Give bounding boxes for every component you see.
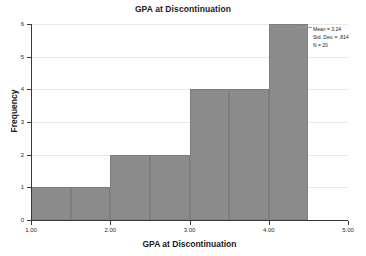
histogram-bar (110, 155, 150, 220)
x-tick-mark (269, 221, 270, 225)
y-tick-mark (27, 122, 31, 123)
stats-std-dev: Std. Dev. = .814 (313, 34, 365, 42)
stats-annotation: Mean = 3.24 Std. Dev. = .814 N = 20 (313, 26, 365, 49)
histogram-bar (150, 155, 190, 220)
x-tick-label: 3.00 (170, 227, 210, 233)
x-axis-title: GPA at Discontinuation (31, 239, 348, 249)
y-tick-label: 1 (2, 184, 24, 190)
x-tick-mark (110, 221, 111, 225)
histogram-bar (269, 24, 309, 220)
x-tick-mark (31, 221, 32, 225)
y-axis-title: Frequency (9, 61, 19, 161)
histogram-bar (71, 187, 111, 220)
x-tick-label: 2.00 (90, 227, 130, 233)
y-tick-label: 0 (2, 217, 24, 223)
stats-n: N = 20 (313, 42, 365, 50)
stats-leader-line (296, 27, 312, 28)
histogram-bar (190, 89, 230, 220)
x-tick-label: 5.00 (328, 227, 366, 233)
y-tick-mark (27, 57, 31, 58)
y-tick-mark (27, 187, 31, 188)
x-tick-mark (190, 221, 191, 225)
chart-title: GPA at Discontinuation (0, 4, 366, 14)
histogram-bar (229, 89, 269, 220)
y-tick-label: 5 (2, 54, 24, 60)
stats-mean: Mean = 3.24 (313, 26, 365, 34)
x-tick-label: 4.00 (249, 227, 289, 233)
y-tick-mark (27, 89, 31, 90)
y-tick-mark (27, 24, 31, 25)
histogram-bar (31, 187, 71, 220)
bars-layer (31, 24, 348, 220)
y-tick-mark (27, 155, 31, 156)
y-axis-line (31, 24, 32, 221)
y-tick-label: 6 (2, 21, 24, 27)
x-tick-mark (348, 221, 349, 225)
x-tick-label: 1.00 (11, 227, 51, 233)
histogram-chart: GPA at Discontinuation 0123456 1.002.003… (0, 0, 366, 256)
